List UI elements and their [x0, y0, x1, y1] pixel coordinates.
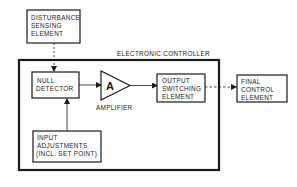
block-diagram: ELECTRONIC CONTROLLER DISTURBANCE SENSIN…: [0, 0, 297, 187]
null-detector-line-1: NULL: [37, 77, 55, 84]
output-switching-line-2: SWITCHING: [162, 85, 201, 92]
input-adjustments-line-3: (INCL. SET POINT): [36, 150, 97, 158]
input-adjustments-block: INPUT ADJUSTMENTS (INCL. SET POINT): [33, 131, 101, 162]
disturbance-line-2: SENSING: [31, 22, 62, 29]
null-detector-block: NULL DETECTOR: [32, 72, 79, 98]
input-adjustments-line-1: INPUT: [37, 134, 58, 141]
input-adjustments-line-2: ADJUSTMENTS: [37, 142, 88, 149]
controller-title: ELECTRONIC CONTROLLER: [117, 50, 210, 57]
disturbance-line-1: DISTURBANCE: [31, 14, 80, 21]
final-control-element-block: FINAL CONTROL ELEMENT: [237, 75, 287, 102]
final-control-line-1: FINAL: [241, 78, 261, 85]
final-control-line-3: ELEMENT: [241, 94, 273, 101]
null-detector-line-2: DETECTOR: [36, 85, 74, 92]
output-switching-element-block: OUTPUT SWITCHING ELEMENT: [157, 74, 205, 102]
disturbance-sensing-element-block: DISTURBANCE SENSING ELEMENT: [27, 10, 80, 43]
output-switching-line-3: ELEMENT: [162, 93, 194, 100]
amplifier-caption: AMPLIFIER: [96, 104, 133, 111]
disturbance-line-3: ELEMENT: [31, 30, 63, 37]
output-switching-line-1: OUTPUT: [162, 77, 190, 84]
amplifier-block: A AMPLIFIER: [96, 71, 133, 111]
final-control-line-2: CONTROL: [241, 86, 274, 93]
amplifier-symbol: A: [106, 80, 114, 92]
